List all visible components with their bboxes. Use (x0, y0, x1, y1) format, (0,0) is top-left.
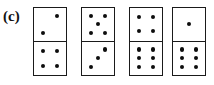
pip (96, 56, 100, 60)
domino-tile-4 (172, 7, 206, 76)
pip (194, 65, 198, 69)
panel-label: (c) (3, 9, 20, 24)
pip (137, 15, 141, 19)
pip (103, 47, 107, 51)
domino-3-bottom-half (130, 42, 162, 76)
pip (96, 22, 100, 26)
pip (89, 14, 93, 18)
pip (137, 47, 141, 51)
domino-4-bottom-half (173, 42, 205, 76)
pip (194, 56, 198, 60)
pip (180, 47, 184, 51)
domino-1-top-half (34, 8, 66, 42)
pip (55, 14, 59, 18)
pip (194, 47, 198, 51)
pip (137, 29, 141, 33)
pip (55, 64, 59, 68)
pip (151, 65, 155, 69)
domino-3-top-half (130, 8, 162, 42)
pip (187, 22, 191, 26)
pip (41, 31, 45, 35)
pip (151, 56, 155, 60)
pip (89, 65, 93, 69)
pip (41, 49, 45, 53)
domino-figure: (c) (0, 0, 214, 85)
pip (151, 29, 155, 33)
pip (103, 14, 107, 18)
domino-tile-2 (81, 7, 115, 76)
domino-2-bottom-half (82, 42, 114, 76)
pip (180, 65, 184, 69)
pip (151, 15, 155, 19)
pip (137, 56, 141, 60)
pip (89, 31, 93, 35)
domino-2-top-half (82, 8, 114, 42)
pip (137, 65, 141, 69)
domino-4-top-half (173, 8, 205, 42)
domino-1-bottom-half (34, 42, 66, 76)
domino-tile-3 (129, 7, 163, 76)
domino-tile-1 (33, 7, 67, 76)
pip (55, 49, 59, 53)
pip (151, 47, 155, 51)
pip (103, 31, 107, 35)
pip (180, 56, 184, 60)
pip (41, 64, 45, 68)
